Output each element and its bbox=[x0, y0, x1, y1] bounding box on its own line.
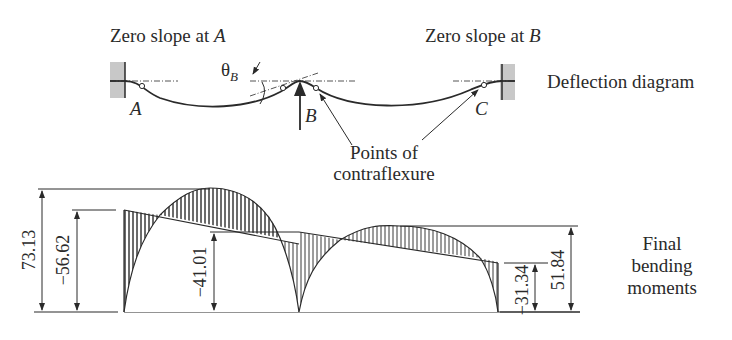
deflection-diagram: Zero slope at A Zero slope at B Deflecti… bbox=[110, 25, 694, 184]
zero-slope-a-label: Zero slope at A bbox=[110, 25, 226, 46]
deflection-diagram-title: Deflection diagram bbox=[547, 71, 694, 92]
moments-title-line1: Final bbox=[642, 233, 681, 254]
dim-73-label: 73.13 bbox=[19, 230, 39, 271]
dim-51-label: 51.84 bbox=[548, 250, 568, 291]
contraflexure-point bbox=[481, 82, 486, 87]
contraflexure-label-line2: contraflexure bbox=[333, 163, 434, 184]
point-b-label: B bbox=[305, 105, 317, 126]
point-c-label: C bbox=[475, 98, 488, 119]
moments-title-line2: bending bbox=[631, 255, 693, 276]
contraflexure-label-line1: Points of bbox=[350, 142, 419, 163]
dim-56-label: −56.62 bbox=[53, 235, 73, 286]
point-a-label: A bbox=[128, 98, 142, 119]
support-arrow-icon bbox=[294, 81, 306, 96]
deflected-shape bbox=[125, 81, 502, 107]
dim-41-label: −41.01 bbox=[190, 247, 210, 298]
bending-moment-diagram: 73.13 −56.62 −41.01 −31.34 51.84 Final b… bbox=[19, 188, 697, 315]
moments-title-line3: moments bbox=[627, 277, 697, 298]
contraflexure-point bbox=[313, 85, 318, 90]
zero-slope-b-label: Zero slope at B bbox=[425, 25, 541, 46]
beam-diagram: Zero slope at A Zero slope at B Deflecti… bbox=[0, 0, 732, 340]
theta-b-label: θB bbox=[221, 59, 238, 84]
contraflexure-point bbox=[139, 83, 144, 88]
dim-31-label: −31.34 bbox=[512, 265, 532, 316]
contraflexure-point bbox=[280, 85, 285, 90]
left-wall bbox=[110, 62, 125, 98]
